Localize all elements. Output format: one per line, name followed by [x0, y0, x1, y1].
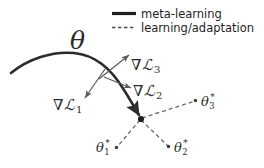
meta-learning-diagram: meta-learning learning/adaptation [0, 0, 264, 168]
grad-loss-3-subscript: 3 [154, 64, 160, 75]
diagram-canvas: meta-learning learning/adaptation [0, 0, 264, 168]
theta-star-2-base: θ [174, 140, 182, 155]
legend-item-meta-learning: meta-learning [112, 7, 222, 21]
theta-star-2-superscript: * [183, 138, 188, 148]
svg-text:θ3*: θ3* [201, 92, 215, 111]
theta-star-1-base: θ [96, 140, 104, 155]
grad-loss-2-label: ∇ℒ2 [133, 82, 162, 101]
grad-loss-1-subscript: 1 [76, 104, 82, 115]
svg-text:∇ℒ2: ∇ℒ2 [133, 82, 162, 101]
theta-star-3-base: θ [201, 94, 209, 109]
svg-text:∇ℒ1: ∇ℒ1 [53, 96, 82, 115]
grad-loss-2-subscript: 2 [156, 90, 162, 101]
nabla-icon-1: ∇ [53, 96, 63, 114]
theta-star-3-label: θ3* [201, 92, 215, 111]
adapt-edge-3 [142, 101, 195, 118]
meeting-point-node [138, 116, 144, 122]
grad-loss-3-label: ∇ℒ3 [131, 56, 160, 75]
adapt-edge-2 [141, 120, 168, 146]
adapt-edge-1 [117, 120, 140, 147]
theta-star-2-subscript: 2 [182, 147, 187, 157]
theta-star-3-superscript: * [210, 92, 215, 102]
theta-star-3-node [194, 99, 197, 102]
math-labels: θ ∇ℒ3 ∇ℒ2 ∇ℒ1 θ1 [53, 26, 215, 157]
nabla-icon-2: ∇ [133, 82, 143, 100]
script-l-3: ℒ [142, 56, 154, 74]
svg-text:θ2*: θ2* [174, 138, 188, 157]
theta-star-1-superscript: * [105, 138, 110, 148]
script-l-2: ℒ [144, 82, 156, 100]
theta-parameter-label: θ [70, 26, 85, 55]
theta-star-3-subscript: 3 [209, 101, 214, 111]
legend-label-meta-learning: meta-learning [141, 7, 222, 21]
grad-loss-1-label: ∇ℒ1 [53, 96, 82, 115]
theta-star-2-label: θ2* [174, 138, 188, 157]
legend-label-learning-adaptation: learning/adaptation [141, 21, 254, 35]
nabla-icon-3: ∇ [131, 56, 141, 74]
svg-text:θ1*: θ1* [96, 138, 110, 157]
theta-star-2-node [167, 145, 170, 148]
script-l-1: ℒ [64, 96, 76, 114]
svg-text:∇ℒ3: ∇ℒ3 [131, 56, 160, 75]
legend: meta-learning learning/adaptation [112, 7, 254, 35]
legend-item-learning-adaptation: learning/adaptation [112, 21, 254, 35]
grad-arrow-1 [85, 69, 105, 98]
theta-star-1-subscript: 1 [104, 147, 109, 157]
theta-star-1-label: θ1* [96, 138, 110, 157]
theta-star-1-node [115, 146, 118, 149]
